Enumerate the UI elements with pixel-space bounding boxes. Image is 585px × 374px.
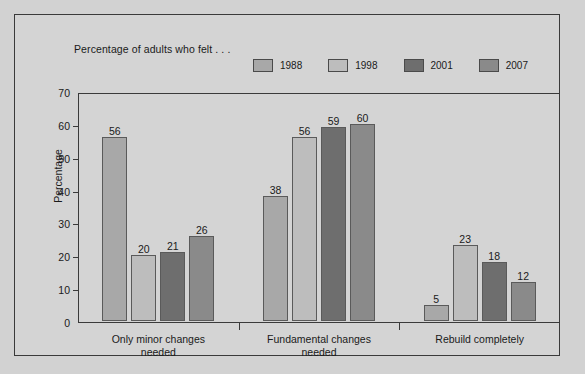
y-axis-tick-mark bbox=[73, 257, 78, 258]
y-axis-tick-label: 70 bbox=[48, 87, 70, 99]
y-axis-tick-label: 40 bbox=[48, 186, 70, 198]
bar-value-label: 21 bbox=[167, 240, 179, 252]
y-axis-tick-label: 60 bbox=[48, 120, 70, 132]
legend-label-1988: 1988 bbox=[280, 60, 302, 71]
bar-1988-group1 bbox=[102, 137, 127, 321]
legend-item-2001: 2001 bbox=[404, 59, 453, 72]
bar-2007-group2 bbox=[350, 124, 375, 321]
y-axis-tick-mark bbox=[73, 159, 78, 160]
legend-label-2001: 2001 bbox=[431, 60, 453, 71]
x-axis-category-label-line: Rebuild completely bbox=[435, 333, 524, 346]
x-axis-category-label: Only minor changesneeded bbox=[112, 333, 205, 359]
bar-1998-group1 bbox=[131, 255, 156, 321]
y-axis-tick-label: 0 bbox=[48, 317, 70, 329]
x-axis-category-label-line: needed bbox=[112, 346, 205, 359]
bar-value-label: 56 bbox=[299, 125, 311, 137]
chart-caption: Percentage of adults who felt . . . bbox=[74, 43, 230, 55]
bar-value-label: 20 bbox=[138, 243, 150, 255]
y-axis-tick-label: 10 bbox=[48, 284, 70, 296]
chart-legend: 1988199820012007 bbox=[253, 56, 554, 74]
bar-1998-group2 bbox=[292, 137, 317, 321]
y-axis-tick-label: 30 bbox=[48, 218, 70, 230]
y-axis-tick-mark bbox=[73, 290, 78, 291]
x-axis-group-separator bbox=[239, 323, 240, 330]
bar-value-label: 38 bbox=[270, 184, 282, 196]
bar-2001-group2 bbox=[321, 127, 346, 321]
x-axis-group-separator bbox=[399, 323, 400, 330]
y-axis-tick-label: 20 bbox=[48, 251, 70, 263]
legend-swatch-2001 bbox=[404, 59, 424, 72]
x-axis-category-label: Rebuild completely bbox=[435, 333, 524, 346]
bar-value-label: 59 bbox=[328, 115, 340, 127]
legend-swatch-1988 bbox=[253, 59, 273, 72]
x-axis-category-label-line: Fundamental changes bbox=[267, 333, 371, 346]
legend-item-1988: 1988 bbox=[253, 59, 302, 72]
legend-label-2007: 2007 bbox=[506, 60, 528, 71]
chart-figure: Percentage of adults who felt . . . 1988… bbox=[0, 0, 585, 374]
y-axis-tick-mark bbox=[73, 126, 78, 127]
bar-1988-group3 bbox=[424, 305, 449, 321]
bar-2007-group3 bbox=[511, 282, 536, 321]
legend-swatch-1998 bbox=[328, 59, 348, 72]
legend-label-1998: 1998 bbox=[355, 60, 377, 71]
bar-2001-group1 bbox=[160, 252, 185, 321]
bar-value-label: 12 bbox=[517, 270, 529, 282]
bar-value-label: 18 bbox=[488, 250, 500, 262]
legend-swatch-2007 bbox=[479, 59, 499, 72]
bar-value-label: 60 bbox=[357, 112, 369, 124]
x-axis-category-label-line: Only minor changes bbox=[112, 333, 205, 346]
bar-1998-group3 bbox=[453, 245, 478, 321]
bar-2001-group3 bbox=[482, 262, 507, 321]
legend-item-2007: 2007 bbox=[479, 59, 528, 72]
y-axis-tick-mark bbox=[73, 192, 78, 193]
bar-value-label: 56 bbox=[109, 125, 121, 137]
y-axis-tick-label: 50 bbox=[48, 153, 70, 165]
x-axis-category-label-line: needed bbox=[267, 346, 371, 359]
bar-value-label: 23 bbox=[459, 233, 471, 245]
legend-item-1998: 1998 bbox=[328, 59, 377, 72]
x-axis-category-label: Fundamental changesneeded bbox=[267, 333, 371, 359]
bar-2007-group1 bbox=[189, 236, 214, 321]
y-axis-label: Percentage bbox=[52, 131, 64, 221]
y-axis-tick-mark bbox=[73, 224, 78, 225]
bar-value-label: 5 bbox=[433, 293, 439, 305]
bar-value-label: 26 bbox=[196, 224, 208, 236]
chart-panel: Percentage of adults who felt . . . 1988… bbox=[14, 14, 560, 356]
bar-1988-group2 bbox=[263, 196, 288, 321]
